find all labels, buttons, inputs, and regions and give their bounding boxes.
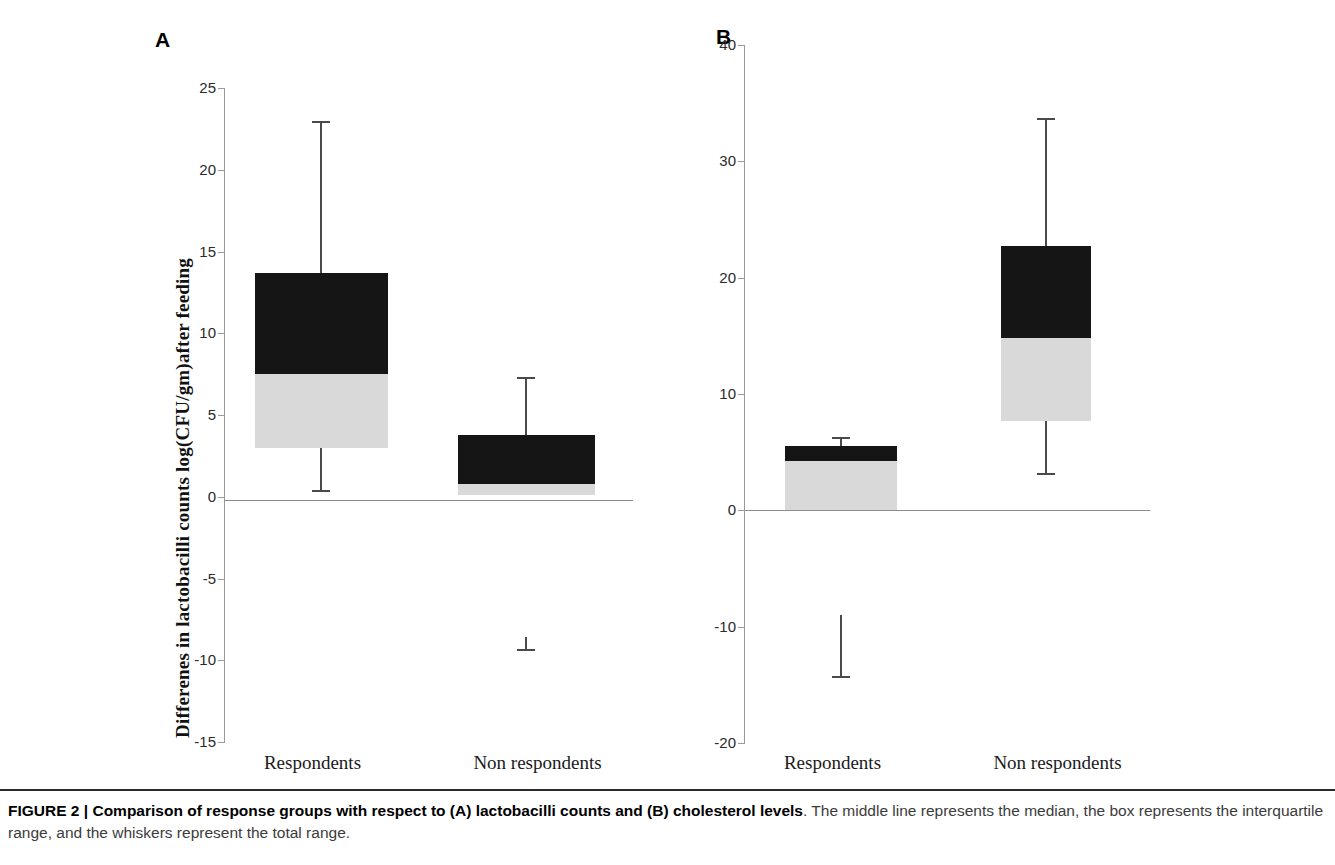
panel-b: B Differencees in cholesterol levels (mg… [665, 0, 1335, 786]
panel-a-tick-label-1: 20 [170, 161, 216, 178]
panel-a-tick-7 [218, 660, 225, 661]
panel-b-box-1-lower-half [1001, 338, 1091, 421]
panel-a: A Differenes in lactobacilli counts log(… [0, 0, 680, 786]
panel-a-box-0-upper-half [255, 273, 388, 374]
caption-separator: | [84, 802, 88, 819]
panel-b-tick-label-4: 0 [690, 501, 736, 518]
panel-a-box-1-upper-whisker-cap [517, 377, 535, 379]
panel-a-box-0-lower-whisker-cap [312, 490, 330, 492]
panel-a-tick-label-2: 15 [170, 243, 216, 260]
panel-b-tick-6 [738, 743, 745, 744]
panel-a-tick-label-0: 25 [170, 79, 216, 96]
panel-b-box-0-lower-whisker [840, 615, 842, 675]
panel-a-tick-label-5: 0 [170, 488, 216, 505]
panel-a-box-0-upper-whisker-cap [312, 121, 330, 123]
panel-a-tick-label-7: -10 [170, 651, 216, 668]
figure-caption: FIGURE 2 | Comparison of response groups… [8, 800, 1328, 844]
panel-b-tick-label-6: -20 [690, 734, 736, 751]
panel-b-box-1-upper-whisker [1045, 118, 1047, 246]
panel-a-letter: A [155, 28, 170, 52]
panel-a-box-1-lower-whisker [525, 637, 527, 648]
panel-a-box-1-upper-whisker [525, 377, 527, 434]
panel-b-box-0-upper-half [785, 446, 897, 461]
panel-a-tick-1 [218, 170, 225, 171]
panel-b-box-1-upper-half [1001, 246, 1091, 338]
panel-a-tick-3 [218, 333, 225, 334]
panel-b-tick-4 [738, 510, 745, 511]
figure-area: A Differenes in lactobacilli counts log(… [0, 0, 1335, 786]
caption-title: Comparison of response groups with respe… [92, 802, 803, 819]
panel-a-tick-label-6: -5 [170, 570, 216, 587]
panel-a-category-non-respondents: Non respondents [430, 752, 645, 774]
panel-a-box-1-upper-half [458, 435, 595, 484]
panel-a-tick-label-4: 5 [170, 406, 216, 423]
panel-b-category-respondents: Respondents [745, 752, 920, 774]
panel-a-box-0-lower-half [255, 374, 388, 448]
panel-a-box-0-lower-whisker [320, 448, 322, 491]
panel-b-tick-label-5: -10 [690, 618, 736, 635]
panel-a-tick-6 [218, 579, 225, 580]
panel-a-tick-8 [218, 742, 225, 743]
panel-b-tick-label-0: 40 [690, 36, 736, 53]
panel-b-tick-5 [738, 627, 745, 628]
panel-a-tick-5 [218, 497, 225, 498]
panel-a-tick-0 [218, 88, 225, 89]
panel-a-box-0-upper-whisker [320, 121, 322, 273]
panel-a-zero-line [224, 500, 633, 501]
panel-b-tick-2 [738, 278, 745, 279]
caption-figure-label: FIGURE 2 [8, 802, 79, 819]
panel-b-tick-1 [738, 161, 745, 162]
caption-divider [0, 789, 1335, 791]
panel-a-tick-label-3: 10 [170, 324, 216, 341]
panel-b-category-non-respondents: Non respondents [950, 752, 1165, 774]
panel-a-tick-4 [218, 415, 225, 416]
panel-b-tick-label-3: 10 [690, 385, 736, 402]
panel-b-box-1-lower-whisker-cap [1037, 473, 1055, 475]
panel-b-tick-label-1: 30 [690, 152, 736, 169]
panel-b-tick-label-2: 20 [690, 269, 736, 286]
panel-b-box-0-lower-half [785, 461, 897, 510]
panel-a-box-1-lower-half [458, 484, 595, 495]
panel-a-category-respondents: Respondents [225, 752, 400, 774]
panel-b-box-1-upper-whisker-cap [1037, 118, 1055, 120]
panel-b-box-1-lower-whisker [1045, 421, 1047, 473]
panel-a-box-1-lower-whisker-cap [517, 649, 535, 651]
panel-a-tick-2 [218, 252, 225, 253]
panel-a-tick-label-8: -15 [170, 733, 216, 750]
panel-b-tick-3 [738, 394, 745, 395]
panel-b-box-0-lower-whisker-cap [832, 676, 850, 678]
panel-b-box-0-upper-whisker-cap [832, 437, 850, 439]
panel-b-tick-0 [738, 45, 745, 46]
